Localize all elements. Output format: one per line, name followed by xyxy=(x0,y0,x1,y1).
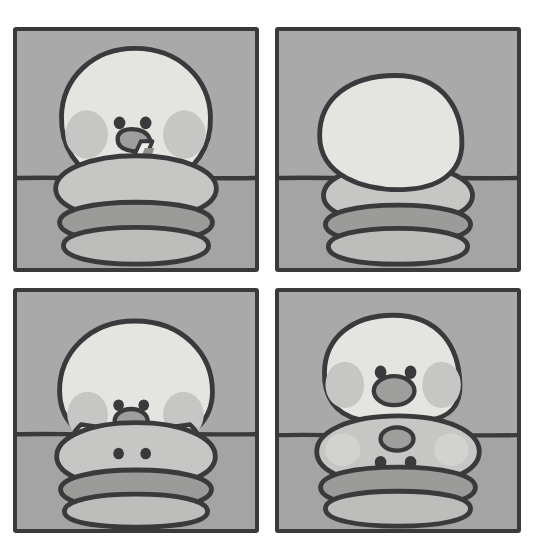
bun-face-right-eye-icon xyxy=(140,448,151,460)
right-cheek-icon xyxy=(422,362,461,408)
panel-3-artwork xyxy=(17,292,255,529)
comic-panel-3 xyxy=(13,288,259,533)
right-cheek-icon xyxy=(163,110,206,158)
comic-panel-1 xyxy=(13,27,259,272)
burger-bottom-bun xyxy=(325,491,470,526)
burger-bottom-bun xyxy=(63,227,208,264)
bun-left-cheek-icon xyxy=(325,433,360,466)
beak-icon xyxy=(374,376,415,405)
left-cheek-icon xyxy=(325,362,364,408)
comic-panel-4 xyxy=(275,288,521,533)
burger-bottom-bun xyxy=(64,494,207,527)
burger-bottom-bun xyxy=(328,228,467,264)
bun-face-left-eye-icon xyxy=(113,448,124,460)
bun-right-cheek-icon xyxy=(434,433,469,466)
left-cheek-icon xyxy=(65,110,108,158)
comic-strip xyxy=(0,0,534,549)
blank-round-head xyxy=(320,75,462,189)
left-eye-icon xyxy=(114,117,126,130)
panel-2-artwork xyxy=(279,31,517,268)
comic-panel-2 xyxy=(275,27,521,272)
panel-4-artwork xyxy=(279,292,517,529)
right-eye-icon xyxy=(140,117,152,130)
panel-1-artwork xyxy=(17,31,255,268)
bun-face-beak-icon xyxy=(381,427,414,450)
